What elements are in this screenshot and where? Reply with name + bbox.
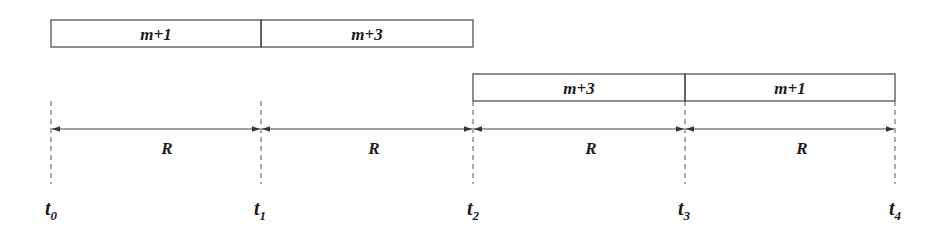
top-cell-1-label: m+1 xyxy=(140,25,171,44)
bottom-cell-2-label: m+1 xyxy=(774,79,805,98)
top-cell-2-label: m+3 xyxy=(351,25,383,44)
tick-label-t0: t0 xyxy=(45,197,58,223)
tick-labels: t0 t1 t2 t3 t4 xyxy=(45,197,902,223)
tick-label-t2: t2 xyxy=(467,197,480,223)
bottom-cell-1-label: m+3 xyxy=(563,79,595,98)
interval-label: R xyxy=(160,139,172,158)
timeline-diagram: m+1 m+3 m+3 m+1 R R R R t0 t1 t2 t3 t4 xyxy=(0,0,948,232)
tick-label-t1: t1 xyxy=(254,197,266,223)
interval-label: R xyxy=(367,139,379,158)
bottom-row: m+3 m+1 xyxy=(473,74,895,101)
top-row: m+1 m+3 xyxy=(51,20,473,47)
interval-labels: R R R R xyxy=(160,139,807,158)
tick-label-t3: t3 xyxy=(678,197,691,223)
interval-label: R xyxy=(795,139,807,158)
tick-label-t4: t4 xyxy=(889,197,902,223)
tick-lines xyxy=(51,101,895,184)
interval-label: R xyxy=(584,139,596,158)
